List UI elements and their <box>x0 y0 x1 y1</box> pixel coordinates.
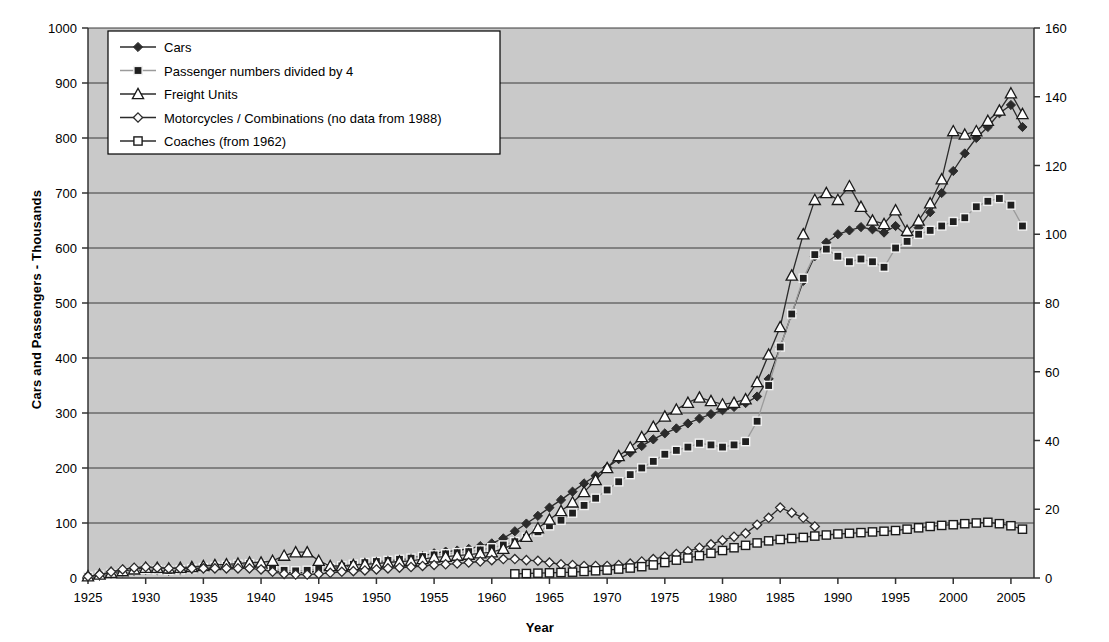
svg-text:100: 100 <box>1045 227 1067 242</box>
legend-item[interactable]: Motorcycles / Combinations (no data from… <box>120 111 441 126</box>
svg-text:0: 0 <box>1045 571 1052 586</box>
svg-text:60: 60 <box>1045 365 1059 380</box>
legend-label: Passenger numbers divided by 4 <box>164 64 353 79</box>
svg-text:1965: 1965 <box>535 590 564 605</box>
svg-text:40: 40 <box>1045 434 1059 449</box>
svg-text:700: 700 <box>55 186 77 201</box>
svg-text:1940: 1940 <box>247 590 276 605</box>
svg-text:900: 900 <box>55 76 77 91</box>
svg-text:1930: 1930 <box>131 590 160 605</box>
svg-text:400: 400 <box>55 351 77 366</box>
svg-text:1000: 1000 <box>48 21 77 36</box>
legend-label: Motorcycles / Combinations (no data from… <box>164 111 441 126</box>
x-axis-title: Year <box>440 620 640 635</box>
legend-label: Cars <box>164 40 192 55</box>
svg-text:2000: 2000 <box>939 590 968 605</box>
svg-text:1980: 1980 <box>708 590 737 605</box>
svg-text:120: 120 <box>1045 159 1067 174</box>
svg-text:300: 300 <box>55 406 77 421</box>
svg-text:500: 500 <box>55 296 77 311</box>
svg-text:100: 100 <box>55 516 77 531</box>
chart-legend: CarsPassenger numbers divided by 4Freigh… <box>108 31 500 154</box>
svg-text:1970: 1970 <box>593 590 622 605</box>
svg-text:600: 600 <box>55 241 77 256</box>
svg-text:20: 20 <box>1045 502 1059 517</box>
svg-text:800: 800 <box>55 131 77 146</box>
svg-text:1955: 1955 <box>420 590 449 605</box>
svg-text:160: 160 <box>1045 21 1067 36</box>
svg-text:1950: 1950 <box>362 590 391 605</box>
svg-text:1945: 1945 <box>304 590 333 605</box>
svg-text:200: 200 <box>55 461 77 476</box>
svg-text:1925: 1925 <box>74 590 103 605</box>
legend-label: Freight Units <box>164 87 238 102</box>
svg-text:1960: 1960 <box>477 590 506 605</box>
legend-label: Coaches (from 1962) <box>164 134 286 149</box>
y-axis-left-title: Cars and Passengers - Thousands <box>29 190 44 410</box>
svg-text:1990: 1990 <box>823 590 852 605</box>
svg-text:140: 140 <box>1045 90 1067 105</box>
svg-text:1985: 1985 <box>766 590 795 605</box>
chart-container: 01002003004005006007008009001000 0204060… <box>0 0 1109 642</box>
svg-text:2005: 2005 <box>996 590 1025 605</box>
svg-text:1975: 1975 <box>650 590 679 605</box>
svg-text:80: 80 <box>1045 296 1059 311</box>
svg-text:0: 0 <box>70 571 77 586</box>
svg-text:1995: 1995 <box>881 590 910 605</box>
chart-svg: 01002003004005006007008009001000 0204060… <box>0 0 1109 642</box>
svg-text:1935: 1935 <box>189 590 218 605</box>
